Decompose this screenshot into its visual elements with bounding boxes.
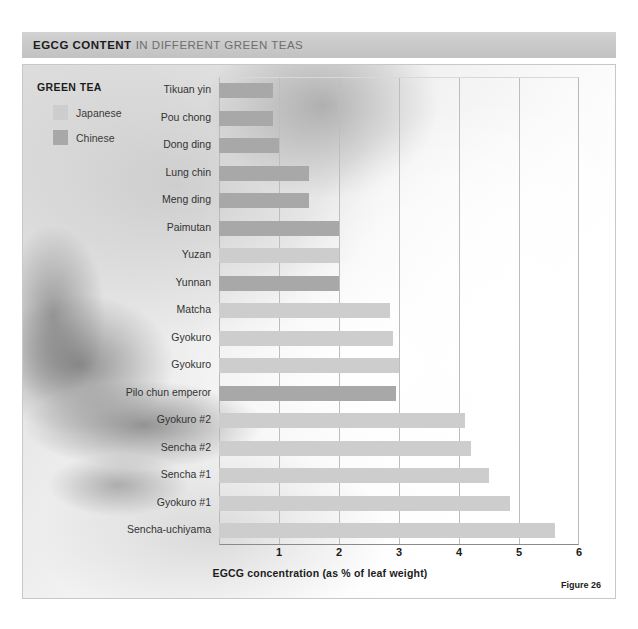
bar: Paimutan [219, 221, 339, 236]
bar: Lung chin [219, 166, 309, 181]
bar-label: Paimutan [167, 221, 211, 233]
bar-label: Gyokuro [171, 358, 211, 370]
chart-title-rest: IN DIFFERENT GREEN TEAS [136, 39, 304, 51]
bar-row: Dong ding [219, 132, 579, 160]
bar: Sencha #1 [219, 468, 489, 483]
bar: Dong ding [219, 138, 279, 153]
bar: Matcha [219, 303, 390, 318]
x-tick-2: 2 [336, 546, 342, 558]
bar-label: Pou chong [161, 111, 211, 123]
bar-label: Gyokuro [171, 331, 211, 343]
bar-label: Sencha #1 [161, 468, 211, 480]
legend-item-japanese: Japanese [53, 105, 177, 120]
x-axis-label: EGCG concentration (as % of leaf weight) [23, 567, 616, 579]
chart-title-bar: EGCG CONTENT IN DIFFERENT GREEN TEAS [22, 32, 616, 58]
bar: Pilo chun emperor [219, 386, 396, 401]
bar-label: Meng ding [162, 193, 211, 205]
bar-label: Sencha-uchiyama [127, 523, 211, 535]
bar-row: Lung chin [219, 160, 579, 188]
legend-swatch-japanese [53, 105, 68, 120]
bar: Gyokuro [219, 358, 399, 373]
bar-row: Sencha-uchiyama [219, 517, 579, 545]
x-tick-1: 1 [276, 546, 282, 558]
bar-row: Meng ding [219, 187, 579, 215]
bar: Sencha-uchiyama [219, 523, 555, 538]
bar-label: Sencha #2 [161, 441, 211, 453]
bar-row: Gyokuro [219, 352, 579, 380]
bar-row: Pou chong [219, 105, 579, 133]
bar-row: Yuzan [219, 242, 579, 270]
legend: GREEN TEA Japanese Chinese [37, 81, 177, 155]
x-axis-ticks: 123456 [219, 546, 579, 564]
x-tick-4: 4 [456, 546, 462, 558]
bar-label: Lung chin [165, 166, 211, 178]
bar-label: Gyokuro #2 [157, 413, 211, 425]
bar-row: Gyokuro #1 [219, 490, 579, 518]
bar-row: Matcha [219, 297, 579, 325]
bar-label: Dong ding [163, 138, 211, 150]
figure-page: EGCG CONTENT IN DIFFERENT GREEN TEAS GRE… [0, 0, 638, 629]
bar: Yunnan [219, 276, 339, 291]
x-tick-6: 6 [576, 546, 582, 558]
bar-label: Yunnan [175, 276, 211, 288]
bar-row: Gyokuro [219, 325, 579, 353]
bar: Tikuan yin [219, 83, 273, 98]
x-tick-3: 3 [396, 546, 402, 558]
bar-label: Gyokuro #1 [157, 496, 211, 508]
bar-label: Matcha [177, 303, 211, 315]
x-tick-5: 5 [516, 546, 522, 558]
bar-row: Sencha #1 [219, 462, 579, 490]
bar: Gyokuro [219, 331, 393, 346]
bar-row: Yunnan [219, 270, 579, 298]
figure-caption: Figure 26 [561, 580, 601, 590]
bar-row: Tikuan yin [219, 77, 579, 105]
bar: Sencha #2 [219, 441, 471, 456]
plot-area: Tikuan yinPou chongDong dingLung chinMen… [219, 77, 579, 545]
chart-panel: GREEN TEA Japanese Chinese Tikuan yinPou… [22, 64, 616, 599]
bar: Meng ding [219, 193, 309, 208]
bar: Gyokuro #1 [219, 496, 510, 511]
bar-row: Paimutan [219, 215, 579, 243]
bar-label: Pilo chun emperor [126, 386, 211, 398]
legend-title: GREEN TEA [37, 81, 177, 93]
legend-label-chinese: Chinese [76, 132, 115, 144]
bar: Gyokuro #2 [219, 413, 465, 428]
bar-label: Tikuan yin [164, 83, 211, 95]
legend-swatch-chinese [53, 130, 68, 145]
legend-label-japanese: Japanese [76, 107, 122, 119]
bar-row: Gyokuro #2 [219, 407, 579, 435]
legend-item-chinese: Chinese [53, 130, 177, 145]
bar-label: Yuzan [182, 248, 211, 260]
bar-row: Sencha #2 [219, 435, 579, 463]
bar: Yuzan [219, 248, 339, 263]
bar-row: Pilo chun emperor [219, 380, 579, 408]
bar: Pou chong [219, 111, 273, 126]
bar-group: Tikuan yinPou chongDong dingLung chinMen… [219, 77, 579, 545]
chart-title-strong: EGCG CONTENT [33, 39, 132, 51]
